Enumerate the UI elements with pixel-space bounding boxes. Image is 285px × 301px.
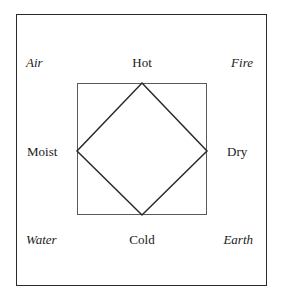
quality-hot-label: Hot [132, 56, 152, 69]
element-earth-label: Earth [223, 233, 253, 246]
element-water-label: Water [26, 233, 57, 246]
quality-cold-label: Cold [129, 233, 154, 246]
element-air-label: Air [26, 56, 43, 69]
quality-dry-label: Dry [227, 145, 247, 158]
elements-qualities-diagram: Air Fire Water Earth Hot Cold Moist Dry [0, 0, 285, 301]
quality-moist-label: Moist [27, 145, 57, 158]
element-fire-label: Fire [231, 56, 253, 69]
